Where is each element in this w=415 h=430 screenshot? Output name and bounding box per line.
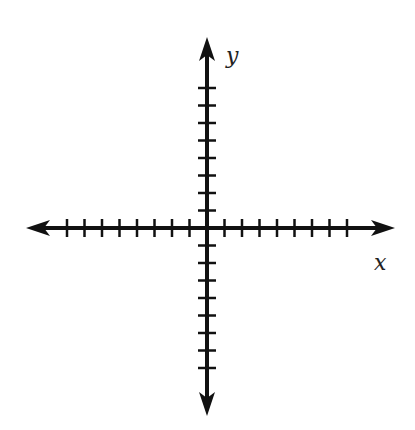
axes (26, 37, 395, 416)
coordinate-plane: x y (0, 0, 415, 430)
y-axis-label: y (225, 43, 239, 68)
x-axis-label: x (374, 250, 387, 275)
